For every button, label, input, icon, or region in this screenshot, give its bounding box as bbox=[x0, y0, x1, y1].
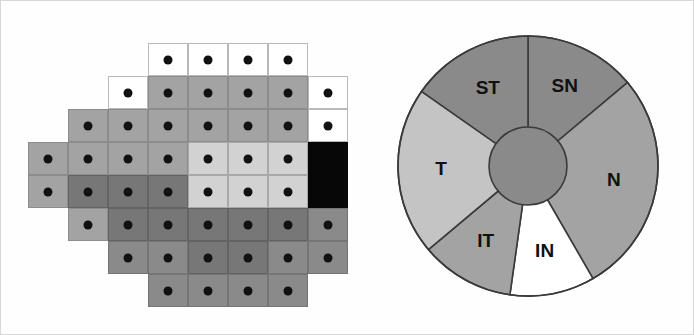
wheel-label-n: N bbox=[607, 169, 621, 190]
som-node-dot bbox=[284, 187, 293, 196]
som-node-dot bbox=[164, 88, 173, 97]
wheel-label-it: IT bbox=[477, 230, 494, 251]
som-node-dot bbox=[284, 55, 293, 64]
som-node-dot bbox=[164, 187, 173, 196]
som-node-dot bbox=[204, 154, 213, 163]
wheel-label-in: IN bbox=[535, 240, 554, 261]
som-node-dot bbox=[124, 121, 133, 130]
som-node-dot bbox=[164, 55, 173, 64]
som-node-dot bbox=[324, 88, 333, 97]
som-node-dot bbox=[204, 220, 213, 229]
som-node-dot bbox=[244, 253, 253, 262]
wheel-panel: SNNINITTST bbox=[361, 1, 694, 335]
segment-wheel-chart: SNNINITTST bbox=[391, 29, 667, 305]
som-node-dot bbox=[204, 55, 213, 64]
wheel-label-sn: SN bbox=[552, 75, 578, 96]
som-grid bbox=[1, 1, 361, 335]
som-cell-r3-c7 bbox=[308, 142, 348, 175]
som-node-dot bbox=[84, 154, 93, 163]
panel-container: SNNINITTST bbox=[1, 1, 693, 334]
som-node-dot bbox=[244, 187, 253, 196]
som-node-dot bbox=[204, 88, 213, 97]
som-node-dot bbox=[124, 253, 133, 262]
som-node-dot bbox=[164, 121, 173, 130]
som-node-dot bbox=[244, 154, 253, 163]
wheel-center-hub bbox=[489, 127, 567, 205]
figure-frame: SNNINITTST bbox=[0, 0, 694, 335]
som-node-dot bbox=[324, 253, 333, 262]
som-panel bbox=[1, 1, 361, 335]
som-node-dot bbox=[244, 220, 253, 229]
som-node-dot bbox=[284, 220, 293, 229]
som-node-dot bbox=[84, 220, 93, 229]
som-node-dot bbox=[204, 253, 213, 262]
som-node-dot bbox=[284, 286, 293, 295]
som-node-dot bbox=[204, 121, 213, 130]
wheel-label-t: T bbox=[435, 158, 447, 179]
som-node-dot bbox=[204, 286, 213, 295]
som-node-dot bbox=[284, 88, 293, 97]
som-node-dot bbox=[84, 187, 93, 196]
som-node-dot bbox=[44, 187, 53, 196]
som-node-dot bbox=[284, 253, 293, 262]
som-node-dot bbox=[84, 121, 93, 130]
som-cell-r4-c7 bbox=[308, 175, 348, 208]
som-node-dot bbox=[164, 286, 173, 295]
som-node-dot bbox=[44, 154, 53, 163]
som-node-dot bbox=[284, 154, 293, 163]
som-node-dot bbox=[164, 253, 173, 262]
som-node-dot bbox=[164, 154, 173, 163]
som-node-dot bbox=[204, 187, 213, 196]
som-node-dot bbox=[284, 121, 293, 130]
som-node-dot bbox=[244, 88, 253, 97]
som-node-dot bbox=[324, 220, 333, 229]
som-node-dot bbox=[164, 220, 173, 229]
wheel-label-st: ST bbox=[476, 77, 501, 98]
som-node-dot bbox=[124, 88, 133, 97]
som-node-dot bbox=[324, 121, 333, 130]
som-node-dot bbox=[124, 154, 133, 163]
som-node-dot bbox=[244, 121, 253, 130]
som-node-dot bbox=[244, 55, 253, 64]
som-node-dot bbox=[244, 286, 253, 295]
som-node-dot bbox=[124, 187, 133, 196]
som-node-dot bbox=[124, 220, 133, 229]
